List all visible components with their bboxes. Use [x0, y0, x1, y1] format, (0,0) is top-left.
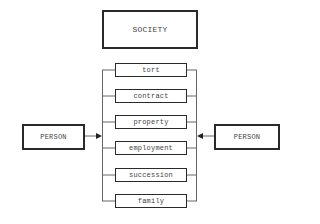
- category-label: tort: [142, 66, 160, 74]
- category-employment: employment: [115, 141, 187, 155]
- arrow-right-to-bracket: [197, 133, 214, 139]
- society-node: SOCIETY: [102, 10, 198, 49]
- category-label: succession: [129, 171, 173, 179]
- category-family: family: [115, 194, 187, 208]
- category-label: employment: [129, 144, 173, 152]
- category-label: contract: [133, 92, 168, 100]
- society-label: SOCIETY: [132, 25, 167, 34]
- category-label: property: [133, 118, 168, 126]
- person-right-label: PERSON: [234, 133, 260, 141]
- category-succession: succession: [115, 168, 187, 182]
- category-label: family: [138, 197, 164, 205]
- person-node-left: PERSON: [22, 124, 85, 150]
- person-node-right: PERSON: [214, 124, 280, 150]
- category-property: property: [115, 115, 187, 129]
- arrow-left-to-bracket: [85, 133, 102, 139]
- category-contract: contract: [115, 89, 187, 103]
- category-tort: tort: [115, 63, 187, 77]
- person-left-label: PERSON: [40, 133, 66, 141]
